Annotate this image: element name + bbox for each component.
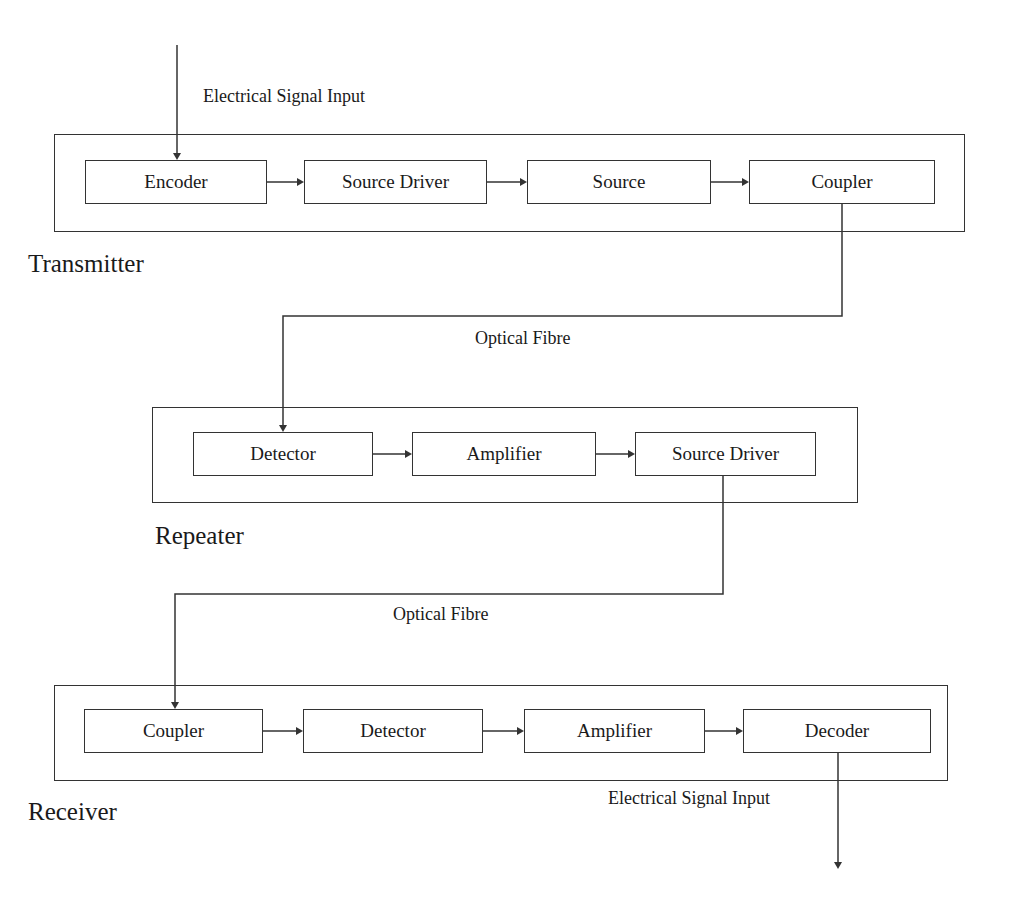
block-coupler: Coupler <box>84 709 263 753</box>
optical-fibre-2 <box>175 476 723 703</box>
optical-fibre-1-label: Optical Fibre <box>475 328 570 349</box>
block-decoder: Decoder <box>743 709 931 753</box>
transmitter-label: Transmitter <box>28 250 144 278</box>
input-signal-label: Electrical Signal Input <box>203 86 365 107</box>
block-source: Source <box>527 160 711 204</box>
block-source-driver: Source Driver <box>304 160 487 204</box>
block-coupler: Coupler <box>749 160 935 204</box>
optical-fibre-1 <box>283 203 842 426</box>
block-amplifier: Amplifier <box>524 709 705 753</box>
block-amplifier: Amplifier <box>412 432 596 476</box>
block-source-driver: Source Driver <box>635 432 816 476</box>
block-detector: Detector <box>193 432 373 476</box>
repeater-label: Repeater <box>155 522 244 550</box>
receiver-label: Receiver <box>28 798 117 826</box>
arrowhead-icon <box>834 862 842 869</box>
block-encoder: Encoder <box>85 160 267 204</box>
block-detector: Detector <box>303 709 483 753</box>
output-signal-label: Electrical Signal Input <box>608 788 770 809</box>
optical-fibre-2-label: Optical Fibre <box>393 604 488 625</box>
